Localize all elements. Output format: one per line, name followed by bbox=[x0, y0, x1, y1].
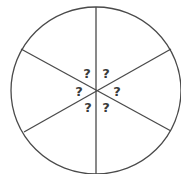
sector-label-lower-right: ? bbox=[102, 100, 110, 115]
sector-label-left: ? bbox=[75, 84, 83, 99]
sector-label-upper-right: ? bbox=[102, 66, 110, 81]
sector-label-right: ? bbox=[113, 84, 121, 99]
sector-label-lower-left: ? bbox=[84, 100, 92, 115]
sector-circle-diagram: ? ? ? ? ? ? bbox=[0, 0, 181, 174]
sector-label-upper-left: ? bbox=[83, 66, 91, 81]
